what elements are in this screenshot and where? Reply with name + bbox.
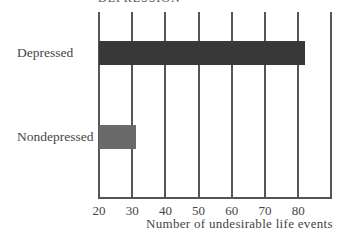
x-axis-label: Number of undesirable life events xyxy=(146,216,333,232)
category-label-nondepressed: Nondepressed xyxy=(17,129,93,145)
chart-title: DEPRESSION xyxy=(98,0,181,6)
gridline xyxy=(231,12,233,198)
gridline xyxy=(164,12,166,198)
bar-nondepressed xyxy=(99,125,136,149)
gridline xyxy=(330,12,332,198)
bar-depressed xyxy=(99,41,305,65)
gridline xyxy=(131,12,133,198)
gridline xyxy=(297,12,299,198)
x-axis-line xyxy=(98,197,332,199)
x-tick-label: 30 xyxy=(126,203,139,219)
gridline xyxy=(98,12,100,198)
x-tick-label: 20 xyxy=(93,203,106,219)
category-label-depressed: Depressed xyxy=(17,45,73,61)
gridline xyxy=(198,12,200,198)
gridline xyxy=(264,12,266,198)
bar-chart: DEPRESSION Depressed Nondepressed 203040… xyxy=(0,0,343,232)
